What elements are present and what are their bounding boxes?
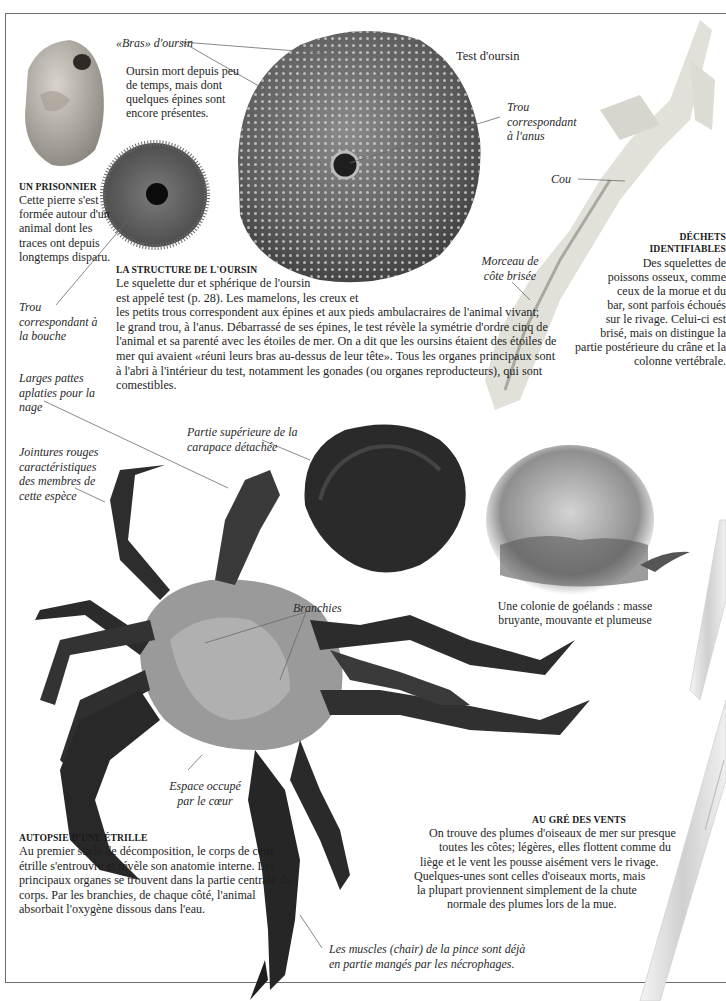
label-line: en partie mangés par les nécrophages. — [329, 957, 525, 972]
heading-line: DÉCHETS — [530, 231, 726, 243]
crab-carapace-label: Partie supérieure de la carapace détaché… — [187, 425, 298, 454]
label-line: Partie supérieure de la — [187, 425, 298, 440]
label-line: à l'anus — [507, 129, 577, 144]
text-line: absorbait l'oxygène dissous dans l'eau. — [19, 902, 291, 917]
text-line: les petits trous correspondent aux épine… — [116, 305, 556, 320]
dead-urchin-note: Oursin mort depuis peu de temps, mais do… — [126, 64, 239, 120]
crab-carapace-image — [305, 424, 466, 572]
label-line: correspondant à — [19, 315, 98, 330]
urchin-test-image — [238, 31, 481, 282]
feathers-text: On trouve des plumes d'oiseaux de mer su… — [414, 826, 676, 912]
text-line: l'animal et sa parenté avec les étoiles … — [116, 334, 556, 349]
label-line: correspondant — [507, 115, 577, 130]
crab-heart-label: Espace occupé par le cœur — [155, 779, 255, 808]
crab-paddle-label: Larges pattes aplaties pour la nage — [19, 371, 95, 415]
text-line: On trouve des plumes d'oiseaux de mer su… — [414, 826, 676, 840]
feathers-image — [640, 520, 726, 1001]
label-line: Trou — [19, 300, 98, 315]
label-line: Les muscles (chair) de la pince sont déj… — [329, 942, 525, 957]
label-line: nage — [19, 400, 95, 415]
gull-colony-engraving-image — [486, 445, 690, 595]
label-line: Larges pattes — [19, 371, 95, 386]
text-line: traces ont depuis — [19, 236, 110, 250]
label-line: Espace occupé — [155, 779, 255, 794]
text-line: principaux organes se trouvent dans la p… — [19, 873, 291, 888]
fish-neck-label: Cou — [551, 172, 571, 187]
text-line: formée autour d'un — [19, 207, 110, 221]
text-line: animal dont les — [19, 221, 110, 235]
text-line: le grand trou, à l'anus. Débarrassé de s… — [116, 320, 556, 335]
text-line: Au premier stade de décomposition, le co… — [19, 844, 291, 859]
caption-line: bruyante, mouvante et plumeuse — [490, 613, 660, 627]
text-line: Quelques-unes sont celles d'oiseaux mort… — [414, 869, 676, 883]
label-line: cette espèce — [19, 489, 98, 504]
heading-line: IDENTIFIABLES — [530, 243, 726, 255]
text-line: mer qui avaient «réuni leurs bras au-des… — [116, 349, 556, 364]
note-line: quelques épines sont — [126, 92, 239, 106]
text-line: à l'abri à l'intérieur du test, notammen… — [116, 364, 556, 379]
label-line: caractéristiques — [19, 460, 98, 475]
crab-autopsy-section: AUTOPSIE D'UNE ÉTRILLE Au premier stade … — [19, 832, 291, 917]
spiny-urchin-image — [103, 143, 207, 247]
caption-line: Une colonie de goélands : masse — [490, 599, 660, 613]
label-line: aplaties pour la — [19, 386, 95, 401]
text-line: Cette pierre s'est — [19, 193, 110, 207]
crab-autopsy-heading: AUTOPSIE D'UNE ÉTRILLE — [19, 832, 291, 844]
crab-autopsy-text: Au premier stade de décomposition, le co… — [19, 844, 291, 917]
text-line: Le squelette dur et sphérique de l'oursi… — [116, 276, 556, 291]
text-line: normale des plumes lors de la mue. — [414, 897, 676, 911]
text-line: la plupart proviennent simplement de la … — [414, 883, 676, 897]
urchin-mouth-label: Trou correspondant à la bouche — [19, 300, 98, 344]
crab-muscles-label: Les muscles (chair) de la pince sont déj… — [329, 942, 525, 971]
urchin-structure-section: LA STRUCTURE DE L'OURSIN Le squelette du… — [116, 264, 556, 393]
prisoner-heading: UN PRISONNIER — [19, 181, 110, 193]
urchin-arms-label: «Bras» d'oursin — [116, 36, 193, 51]
urchin-anus-label: Trou correspondant à l'anus — [507, 100, 577, 144]
text-line: liège et le vent les pousse aisément ver… — [414, 855, 676, 869]
label-line: Jointures rouges — [19, 445, 98, 460]
urchin-structure-text: Le squelette dur et sphérique de l'oursi… — [116, 276, 556, 393]
text-line: étrille s'entrouvre et révèle son anatom… — [19, 859, 291, 874]
stone-prisoner-image — [25, 40, 104, 166]
label-line: par le cœur — [155, 794, 255, 809]
crab-joints-label: Jointures rouges caractéristiques des me… — [19, 445, 98, 503]
fish-section: DÉCHETS IDENTIFIABLES — [530, 231, 726, 255]
prisoner-text: Cette pierre s'est formée autour d'un an… — [19, 193, 110, 264]
feathers-heading: AU GRÉ DES VENTS — [400, 814, 626, 826]
crab-gills-label: Branchies — [293, 601, 342, 616]
urchin-test-label: Test d'oursin — [456, 49, 520, 64]
label-line: des membres de — [19, 474, 98, 489]
text-line: longtemps disparu. — [19, 250, 110, 264]
feathers-section: AU GRÉ DES VENTS — [400, 814, 626, 826]
text-line: comestibles. — [116, 378, 556, 393]
text-line: corps. Par les branchies, de chaque côté… — [19, 888, 291, 903]
label-line: Trou — [507, 100, 577, 115]
gull-colony-caption: Une colonie de goélands : masse bruyante… — [490, 599, 660, 627]
urchin-structure-heading: LA STRUCTURE DE L'OURSIN — [116, 264, 556, 276]
text-line: toutes les côtes; légères, elles flotten… — [414, 840, 676, 854]
text-line: est appelé test (p. 28). Les mamelons, l… — [116, 291, 556, 306]
label-line: la bouche — [19, 329, 98, 344]
note-line: Oursin mort depuis peu — [126, 64, 239, 78]
label-line: carapace détachée — [187, 440, 298, 455]
prisoner-section: UN PRISONNIER Cette pierre s'est formée … — [19, 181, 110, 264]
note-line: de temps, mais dont — [126, 78, 239, 92]
fish-heading: DÉCHETS IDENTIFIABLES — [530, 231, 726, 255]
note-line: encore présentes. — [126, 106, 239, 120]
